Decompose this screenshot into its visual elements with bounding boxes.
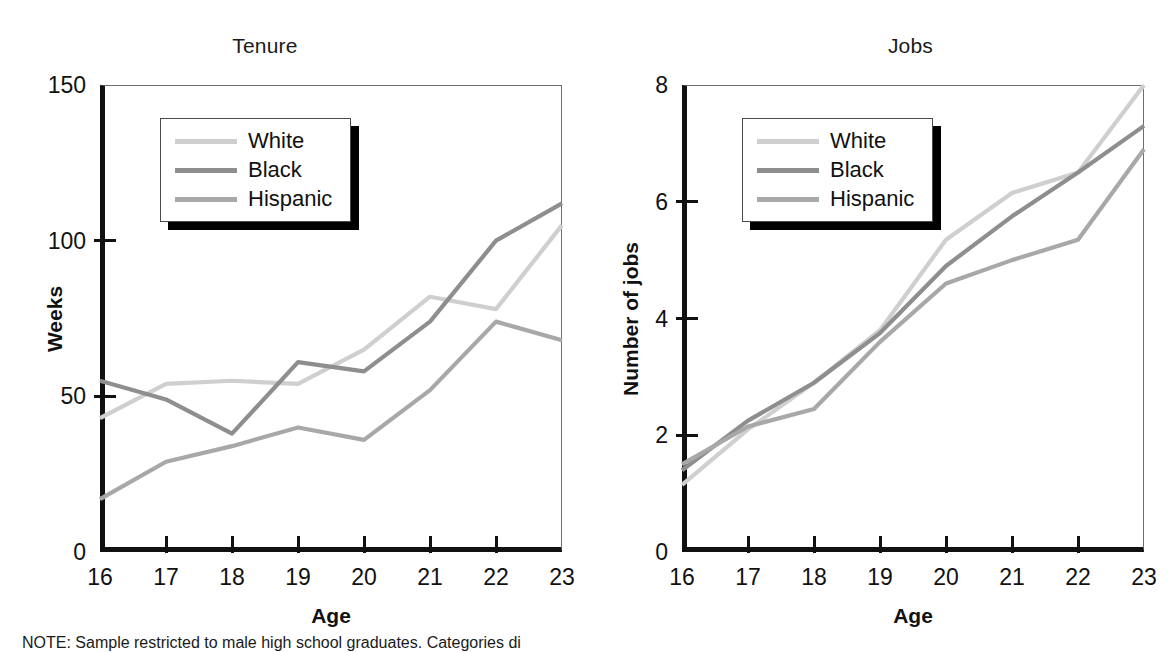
x-tick-label: 17 xyxy=(735,564,761,591)
x-tick-mark xyxy=(429,536,432,553)
x-tick-label: 18 xyxy=(801,564,827,591)
x-tick-mark xyxy=(363,536,366,553)
x-tick-mark xyxy=(1011,536,1014,553)
legend-swatch-white xyxy=(175,139,237,144)
series-line-black xyxy=(100,203,562,433)
y-tick-mark xyxy=(676,200,698,203)
x-tick-label: 23 xyxy=(549,564,575,591)
x-tick-label: 17 xyxy=(153,564,179,591)
series-line-white xyxy=(100,225,562,418)
y-tick-label: 0 xyxy=(73,539,86,566)
legend-label: Hispanic xyxy=(830,188,914,210)
legend-swatch-hispanic xyxy=(757,197,819,202)
chart-panel-jobs: Jobs 02468 1617181920212223 Age Number o… xyxy=(590,0,1175,648)
legend-jobs: WhiteBlackHispanic xyxy=(742,118,933,222)
legend-item-white: White xyxy=(175,130,332,152)
x-tick-mark xyxy=(165,536,168,553)
legend-box: WhiteBlackHispanic xyxy=(160,118,351,222)
x-tick-label: 21 xyxy=(999,564,1025,591)
legend-item-hispanic: Hispanic xyxy=(175,188,332,210)
x-tick-label: 16 xyxy=(669,564,695,591)
y-tick-mark xyxy=(94,239,116,242)
x-tick-mark xyxy=(747,536,750,553)
y-tick-label: 8 xyxy=(655,72,668,99)
y-tick-mark xyxy=(676,434,698,437)
x-tick-label: 20 xyxy=(933,564,959,591)
plot-area-jobs: 02468 1617181920212223 Age Number of job… xyxy=(682,85,1144,552)
plot-area-tenure: 050100150 1617181920212223 Age Weeks Whi… xyxy=(100,85,562,552)
y-tick-mark xyxy=(676,317,698,320)
y-tick-mark xyxy=(94,395,116,398)
x-tick-mark xyxy=(1077,536,1080,553)
x-tick-mark xyxy=(231,536,234,553)
x-tick-label: 18 xyxy=(219,564,245,591)
y-tick-label: 4 xyxy=(655,305,668,332)
figure-note: NOTE: Sample restricted to male high sch… xyxy=(22,634,521,652)
legend-item-hispanic: Hispanic xyxy=(757,188,914,210)
x-tick-label: 23 xyxy=(1131,564,1157,591)
x-tick-mark xyxy=(495,536,498,553)
x-tick-label: 19 xyxy=(867,564,893,591)
legend-item-white: White xyxy=(757,130,914,152)
chart-title-jobs: Jobs xyxy=(618,34,1175,58)
x-tick-label: 19 xyxy=(285,564,311,591)
x-tick-mark xyxy=(813,536,816,553)
legend-swatch-black xyxy=(757,168,819,173)
y-tick-label: 150 xyxy=(48,72,86,99)
legend-label: White xyxy=(248,130,304,152)
x-tick-mark xyxy=(879,536,882,553)
y-axis-title-tenure: Weeks xyxy=(43,285,67,351)
x-tick-label: 16 xyxy=(87,564,113,591)
y-tick-label: 50 xyxy=(60,383,86,410)
x-tick-label: 22 xyxy=(483,564,509,591)
legend-item-black: Black xyxy=(757,159,914,181)
legend-label: Hispanic xyxy=(248,188,332,210)
y-tick-label: 100 xyxy=(48,227,86,254)
y-tick-label: 0 xyxy=(655,539,668,566)
series-line-hispanic xyxy=(100,322,562,499)
legend-swatch-black xyxy=(175,168,237,173)
legend-label: Black xyxy=(830,159,884,181)
legend-tenure: WhiteBlackHispanic xyxy=(160,118,351,222)
y-tick-label: 2 xyxy=(655,422,668,449)
legend-label: White xyxy=(830,130,886,152)
legend-box: WhiteBlackHispanic xyxy=(742,118,933,222)
x-tick-label: 22 xyxy=(1065,564,1091,591)
x-tick-mark xyxy=(297,536,300,553)
x-tick-label: 21 xyxy=(417,564,443,591)
x-axis-title-tenure: Age xyxy=(311,604,351,628)
legend-label: Black xyxy=(248,159,302,181)
x-axis-title-jobs: Age xyxy=(893,604,933,628)
legend-swatch-white xyxy=(757,139,819,144)
legend-swatch-hispanic xyxy=(175,197,237,202)
x-tick-label: 20 xyxy=(351,564,377,591)
y-axis-title-jobs: Number of jobs xyxy=(619,241,643,395)
y-tick-label: 6 xyxy=(655,188,668,215)
chart-title-tenure: Tenure xyxy=(0,34,565,58)
x-tick-mark xyxy=(945,536,948,553)
legend-item-black: Black xyxy=(175,159,332,181)
chart-panel-tenure: Tenure 050100150 1617181920212223 Age We… xyxy=(0,0,600,648)
